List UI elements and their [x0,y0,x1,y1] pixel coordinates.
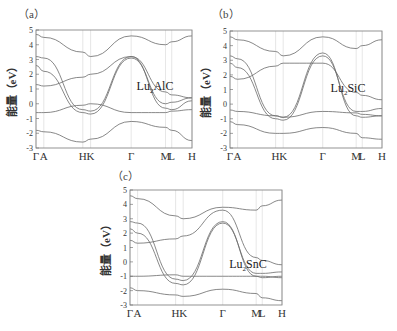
panel-b: （b）543210-1-2-3ΓAHKΓMLH能量（eV）Lu2SiC [199,8,386,162]
y-tick-label: -1 [120,272,127,281]
y-tick-label: 1 [123,244,127,253]
x-tick-label: L [359,150,366,162]
panel-a: （a）543210-1-2-3ΓAHKΓMLH能量（eV）Lu2AlC [5,8,196,162]
panel-label: （c） [112,170,139,182]
y-tick-label: 1 [29,85,33,94]
y-tick-label: 4 [29,41,33,50]
plot-frame [130,190,282,305]
x-tick-label: H [188,150,196,162]
y-tick-label: 2 [223,71,227,80]
panel-c: （c）543210-1-2-3ΓAHKΓMLH能量（eV）Lu2SnC [99,170,286,319]
x-tick-label: H [79,150,87,162]
y-tick-label: 0 [123,258,127,267]
y-axis-label: 能量（eV） [199,61,212,118]
y-tick-label: -2 [120,287,127,296]
y-tick-label: -1 [220,115,227,124]
panel-label: （b） [212,8,240,20]
x-tick-label: A [40,150,48,162]
x-tick-label: Γ [320,150,326,162]
band-line [36,34,192,56]
x-tick-label: K [279,150,287,162]
y-tick-label: 0 [29,100,33,109]
material-label: Lu2AlC [137,79,174,95]
band-line [36,121,192,142]
x-tick-label: Γ [127,307,133,319]
y-tick-label: 1 [223,86,227,95]
y-tick-label: -1 [26,115,33,124]
y-tick-label: 4 [123,200,127,209]
band-line [130,288,282,301]
x-tick-label: Γ [220,307,226,319]
x-tick-label: Γ [128,150,134,162]
x-tick-label: Γ [33,150,39,162]
y-tick-label: 4 [223,42,227,51]
y-tick-label: 3 [223,56,227,65]
y-tick-label: -2 [220,129,227,138]
x-tick-label: L [259,307,266,319]
band-line [130,196,282,219]
y-axis-label: 能量（eV） [5,61,18,118]
x-tick-label: L [168,150,175,162]
y-tick-label: 5 [223,27,227,36]
band-line [36,104,192,113]
band-line [130,222,282,281]
panel-label: （a） [18,8,45,20]
y-tick-label: 0 [223,100,227,109]
band-line [230,122,382,140]
y-tick-label: 2 [29,70,33,79]
y-tick-label: -2 [26,129,33,138]
material-label: Lu2SiC [331,81,366,97]
x-tick-label: H [378,150,386,162]
y-tick-label: 2 [123,229,127,238]
x-tick-label: A [234,150,242,162]
x-tick-label: H [278,307,286,319]
y-axis-label: 能量（eV） [99,219,112,276]
x-tick-label: K [179,307,187,319]
x-tick-label: K [87,150,95,162]
y-tick-label: 5 [123,186,127,195]
x-tick-label: Γ [227,150,233,162]
y-tick-label: 3 [123,215,127,224]
y-tick-label: 5 [29,26,33,35]
band-line [230,37,382,56]
material-label: Lu2SnC [229,257,267,273]
x-tick-label: A [134,307,142,319]
band-structure-figure: （a）543210-1-2-3ΓAHKΓMLH能量（eV）Lu2AlC（b）54… [0,0,397,331]
y-tick-label: 3 [29,56,33,65]
